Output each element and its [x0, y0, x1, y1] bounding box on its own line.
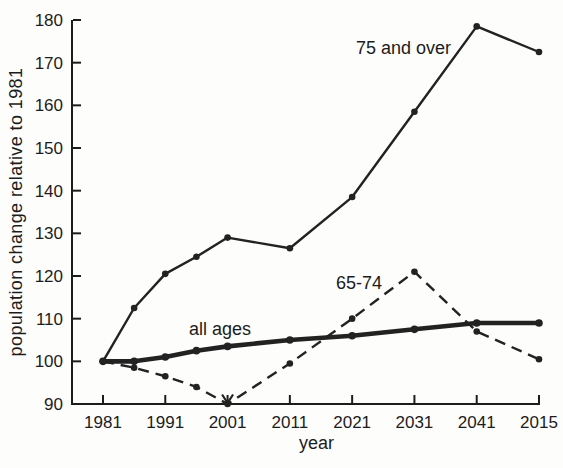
y-tick-label: 180 [35, 11, 63, 30]
series-label-75-and-over: 75 and over [356, 38, 451, 59]
x-tick-label: 1981 [84, 413, 122, 432]
series-label-65-74: 65-74 [336, 273, 382, 294]
data-point-75-and-over [193, 253, 200, 260]
data-point-75-and-over [287, 245, 294, 252]
axes-frame [72, 20, 540, 404]
data-point-all-ages [411, 326, 419, 334]
y-tick-label: 170 [35, 54, 63, 73]
data-point-65-74 [193, 384, 200, 391]
y-tick-label: 150 [35, 139, 63, 158]
data-point-75-and-over [349, 194, 356, 201]
data-point-75-and-over [411, 108, 418, 115]
data-point-65-74 [287, 360, 294, 367]
y-tick-label: 100 [35, 352, 63, 371]
data-point-all-ages [535, 319, 543, 327]
y-tick-label: 90 [44, 395, 63, 414]
y-tick-label: 160 [35, 96, 63, 115]
series-line-75-and-over [103, 26, 539, 361]
y-tick-label: 110 [36, 310, 63, 329]
data-point-all-ages [473, 319, 481, 327]
data-point-all-ages [348, 332, 356, 340]
data-point-all-ages [130, 358, 138, 366]
data-point-65-74 [536, 356, 543, 363]
data-point-75-and-over [473, 23, 480, 30]
data-point-75-and-over [131, 305, 138, 312]
data-point-65-74 [100, 358, 107, 365]
x-tick-label: 2041 [458, 413, 496, 432]
x-tick-label: 2015 [520, 413, 558, 432]
data-point-65-74 [473, 328, 480, 335]
series-label-all-ages: all ages [189, 319, 251, 340]
data-point-75-and-over [224, 234, 231, 241]
y-tick-label: 130 [35, 224, 63, 243]
data-point-65-74 [162, 373, 169, 380]
data-point-75-and-over [536, 49, 543, 56]
x-axis-title: year [299, 433, 334, 454]
y-axis-title: population change relative to 1981 [6, 0, 30, 432]
x-tick-label: 1991 [146, 413, 184, 432]
y-tick-label: 140 [35, 182, 63, 201]
data-point-65-74 [411, 268, 418, 275]
data-point-65-74 [349, 315, 356, 322]
x-tick-label: 2031 [396, 413, 434, 432]
data-point-65-74 [131, 364, 138, 371]
data-point-all-ages [286, 336, 294, 344]
data-point-all-ages [161, 353, 169, 361]
data-point-all-ages [224, 343, 232, 351]
y-tick-label: 120 [35, 267, 63, 286]
data-point-75-and-over [162, 271, 169, 278]
data-point-all-ages [193, 347, 201, 355]
population-change-line-chart: 9010011012013014015016017018019811991200… [0, 0, 563, 468]
x-tick-label: 2021 [333, 413, 371, 432]
chart-canvas: 9010011012013014015016017018019811991200… [0, 0, 563, 468]
x-tick-label: 2001 [209, 413, 247, 432]
x-tick-label: 2011 [272, 413, 309, 432]
